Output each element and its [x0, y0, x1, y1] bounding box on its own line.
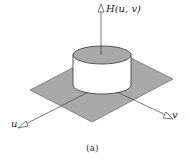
h-axis-label: H(u, v) — [105, 3, 141, 14]
cylinder-top — [73, 46, 131, 64]
h-axis-arrowhead-icon — [98, 4, 104, 12]
figure-caption: (a) — [86, 143, 98, 153]
v-axis-label: v — [172, 109, 178, 120]
u-axis-arrowhead-icon — [18, 121, 28, 128]
u-axis-label: u — [11, 118, 17, 129]
ideal-filter-transfer-function-diagram: H(u, v) u v (a) — [0, 0, 189, 162]
